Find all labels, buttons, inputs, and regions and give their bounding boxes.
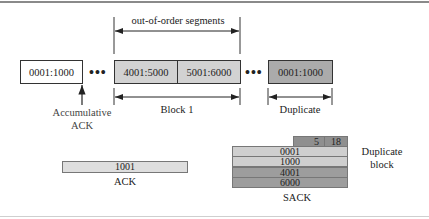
accumulative-label: Accumulative bbox=[44, 107, 120, 119]
sack-row-value: 0001 bbox=[280, 147, 300, 157]
sack-kind-value: 5 bbox=[314, 137, 319, 147]
ack-field: 1001 bbox=[62, 161, 188, 173]
segment-label: 0001:1000 bbox=[278, 67, 323, 78]
accumulative-ack-label: ACK bbox=[44, 120, 120, 132]
ellipsis-1: ••• bbox=[89, 68, 107, 78]
sack-row-value: 4001 bbox=[280, 168, 300, 178]
duplicate-block-label: Duplicate bbox=[357, 146, 407, 158]
ellipsis-2: ••• bbox=[245, 68, 263, 78]
out-of-order-label: out-of-order segments bbox=[118, 15, 238, 27]
sack-row-value: 6000 bbox=[280, 178, 300, 188]
sack-length-value: 18 bbox=[331, 137, 341, 147]
segment-box-0001-1000: 0001:1000 bbox=[20, 60, 83, 84]
sack-caption: SACK bbox=[262, 192, 332, 204]
segment-label: 5001:6000 bbox=[187, 67, 232, 78]
sack-row-block1-right-edge: 6000 bbox=[232, 177, 348, 188]
duplicate-block-label-2: block bbox=[357, 159, 407, 171]
block1-label: Block 1 bbox=[137, 104, 217, 116]
ack-caption: ACK bbox=[95, 176, 155, 188]
ack-value: 1001 bbox=[115, 162, 135, 172]
segment-box-duplicate: 0001:1000 bbox=[268, 60, 333, 84]
segment-box-5001-6000: 5001:6000 bbox=[177, 60, 241, 84]
segment-label: 0001:1000 bbox=[29, 67, 74, 78]
duplicate-label: Duplicate bbox=[270, 104, 330, 116]
sack-row-dup-right-edge: 1000 bbox=[232, 156, 348, 167]
segment-box-4001-5000: 4001:5000 bbox=[114, 60, 178, 84]
segment-label: 4001:5000 bbox=[124, 67, 169, 78]
sack-row-value: 1000 bbox=[280, 157, 300, 167]
